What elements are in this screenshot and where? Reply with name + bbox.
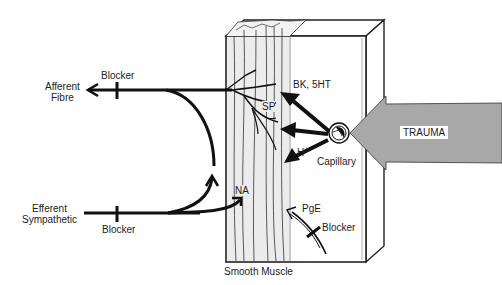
diagram-canvas xyxy=(0,0,502,285)
na-label: NA xyxy=(235,185,249,196)
bk-5ht-label: BK, 5HT xyxy=(293,79,331,90)
afferent-label-line2: Fibre xyxy=(45,92,80,103)
capillary-label: Capillary xyxy=(317,156,356,167)
efferent-label-line1: Efferent xyxy=(22,203,77,214)
plus-superscript: + xyxy=(304,146,308,153)
efferent-label-line2: Sympathetic xyxy=(22,214,77,225)
sp-label: SP xyxy=(262,101,275,112)
capillary-icon xyxy=(329,123,349,143)
pge-label: PgE xyxy=(302,203,321,214)
smooth-muscle-label: Smooth Muscle xyxy=(224,266,293,277)
trauma-label: TRAUMA xyxy=(400,126,448,139)
blocker-afferent-label: Blocker xyxy=(101,70,134,81)
afferent-fibre-label: Afferent Fibre xyxy=(45,81,80,103)
blocker-pge-label: Blocker xyxy=(322,222,355,233)
h-plus-label: H+ xyxy=(297,144,308,158)
blocker-efferent-label: Blocker xyxy=(102,224,135,235)
afferent-label-line1: Afferent xyxy=(45,81,80,92)
efferent-sympathetic-label: Efferent Sympathetic xyxy=(22,203,77,225)
efferent-sympathetic-line xyxy=(84,176,241,222)
